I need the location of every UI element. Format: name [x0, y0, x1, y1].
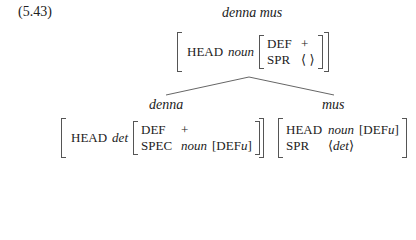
avm-row-def: DEF + — [141, 122, 252, 138]
inner-bracket: DEF + SPEC noun [DEF u ] — [133, 121, 260, 155]
outer-bracket: HEAD det DEF + SPEC noun [DEF u ] — [61, 118, 264, 158]
outer-bracket: HEAD noun [DEF u ] SPR ⟨ det ⟩ — [278, 118, 407, 158]
daughter-label-denna: denna — [149, 97, 183, 113]
head-feature: HEAD — [71, 130, 107, 146]
avm-row-head: HEAD noun [DEF u ] — [286, 122, 399, 138]
head-type: det — [112, 130, 128, 146]
avm-row-spec: SPEC noun [DEF u ] — [141, 138, 252, 154]
daughter-avm-mus: HEAD noun [DEF u ] SPR ⟨ det ⟩ — [278, 118, 407, 158]
daughter-avm-denna: HEAD det DEF + SPEC noun [DEF u ] — [61, 118, 264, 158]
daughter-label-mus: mus — [322, 97, 345, 113]
avm-row-spr: SPR ⟨ det ⟩ — [286, 138, 399, 154]
left-branch — [166, 77, 249, 95]
right-branch — [249, 77, 334, 95]
